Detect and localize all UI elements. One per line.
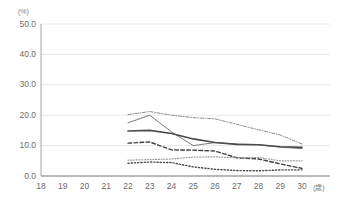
series-5-dotted-fine	[128, 157, 302, 161]
plot-area	[0, 0, 340, 205]
series-3-solid-thick	[128, 130, 302, 147]
series-1-dashdot-upper	[128, 112, 302, 145]
line-chart: (%) (歳) 0.010.020.030.040.050.0 18192021…	[0, 0, 340, 205]
